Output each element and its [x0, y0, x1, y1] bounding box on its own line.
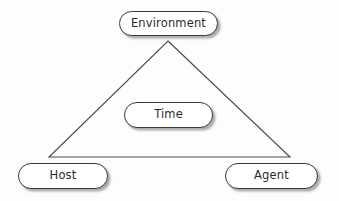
triangle-shape: [49, 41, 290, 157]
node-time-label: Time: [154, 109, 183, 121]
node-time[interactable]: Time: [124, 102, 213, 128]
node-agent-label: Agent: [254, 170, 289, 182]
node-environment-label: Environment: [131, 18, 206, 30]
node-agent[interactable]: Agent: [225, 163, 318, 189]
diagram-canvas: Environment Time Host Agent: [0, 0, 339, 201]
node-host[interactable]: Host: [18, 163, 108, 189]
node-environment[interactable]: Environment: [119, 11, 218, 36]
node-host-label: Host: [50, 170, 77, 182]
